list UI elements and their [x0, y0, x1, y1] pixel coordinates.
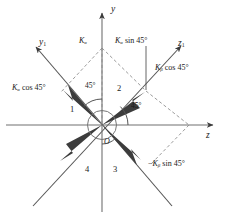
y-axis-label: y: [111, 5, 115, 15]
k-alpha-label: Kα: [79, 37, 87, 46]
origin-label: O: [104, 138, 110, 146]
y1-axis-label: y1: [39, 38, 46, 48]
quadrant-label-2: 2: [117, 84, 121, 93]
figure-diagram-container: y z y1 z1 O Kα Kα cos 45° Kα sin 45° Kβ …: [0, 0, 225, 217]
y1-axis-subscript: 1: [43, 41, 46, 47]
quadrant-label-3: 3: [113, 165, 117, 174]
dashed-k-alpha-to-upper-left: [61, 48, 102, 92]
angle-label-lower-right: 45°: [131, 102, 142, 110]
neg-k-beta-sin-expr: sin 45°: [160, 159, 185, 168]
lobe-lower-left: [60, 125, 102, 161]
vector-decomposition-diagram: [0, 0, 225, 217]
k-beta-cos-label: Kβ cos 45°: [155, 64, 189, 73]
z-axis-label: z: [206, 131, 210, 141]
z1-axis-subscript: 1: [182, 42, 185, 48]
dashed-k-beta-to-z-axis: [146, 91, 189, 125]
lobe-upper-left: [63, 85, 102, 125]
neg-k-beta-sin-label: −Kβ sin 45°: [148, 160, 185, 169]
dashed-k-alpha-to-upper-right: [102, 48, 146, 91]
k-alpha-subscript: α: [84, 40, 87, 45]
angle-label-upper-left: 45°: [85, 82, 96, 90]
k-alpha-cos-expr: cos 45°: [20, 83, 46, 92]
k-alpha-sin-label: Kα sin 45°: [115, 37, 148, 46]
z1-axis-label: z1: [178, 39, 185, 49]
quadrant-label-1: 1: [70, 105, 74, 114]
k-beta-cos-expr: cos 45°: [163, 63, 189, 72]
quadrant-label-4: 4: [85, 165, 89, 174]
y1-axis-line: [36, 47, 172, 206]
k-alpha-cos-label: Kα cos 45°: [12, 84, 46, 93]
k-alpha-sin-expr: sin 45°: [123, 36, 148, 45]
